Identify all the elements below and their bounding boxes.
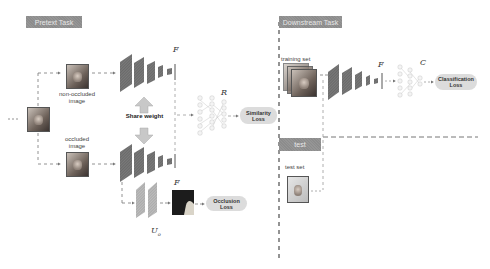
encoder-symbol-top: F <box>173 45 179 54</box>
non-occluded-label-line2: image <box>56 98 98 105</box>
encoder-bottom-layers <box>120 144 175 182</box>
input-face-image <box>27 107 50 132</box>
occluded-label-line1: occluded <box>56 136 98 143</box>
training-set-label: training set <box>281 56 317 63</box>
share-weight-arrows <box>135 97 153 144</box>
occluded-face-image <box>66 152 89 177</box>
occlusion-loss-box: Occlusion Loss <box>206 196 247 211</box>
classifier-symbol: C <box>420 58 426 67</box>
similarity-loss-line2: Loss <box>252 116 265 122</box>
decoder-symbol: Uo <box>151 226 161 237</box>
decoder-layers <box>136 182 157 218</box>
occlusion-mask-output <box>172 190 194 215</box>
downstream-task-tag: Downstream Task <box>279 16 342 28</box>
non-occluded-label: non-occluded image <box>56 91 98 105</box>
test-tag: test <box>279 138 321 151</box>
classifier-network <box>398 65 422 97</box>
training-set-face-front <box>291 69 317 97</box>
similarity-loss-box: Similarity Loss <box>240 107 277 124</box>
projection-symbol: R <box>221 88 227 97</box>
occluded-label: occluded image <box>56 136 98 150</box>
classification-loss-line2: Loss <box>450 82 463 88</box>
occlusion-loss-line2: Loss <box>220 204 233 210</box>
occluded-label-line2: image <box>56 143 98 150</box>
decoder-symbol-subscript: o <box>158 231 161 237</box>
encoder-symbol-bottom: F <box>174 178 180 187</box>
projection-head-network <box>198 96 227 136</box>
classification-loss-box: Classification Loss <box>435 74 477 90</box>
decoder-symbol-main: U <box>151 226 158 235</box>
non-occluded-face-image <box>66 64 89 89</box>
diagram-canvas <box>0 0 490 269</box>
encoder-downstream-layers <box>328 64 382 100</box>
share-weight-label: Share weight <box>122 113 167 120</box>
encoder-symbol-downstream: F <box>378 60 384 69</box>
test-set-face-image <box>287 176 309 203</box>
pretext-task-tag: Pretext Task <box>26 16 82 28</box>
encoder-top-layers <box>120 54 175 92</box>
non-occluded-label-line1: non-occluded <box>56 91 98 98</box>
test-set-label: test set <box>285 164 315 171</box>
